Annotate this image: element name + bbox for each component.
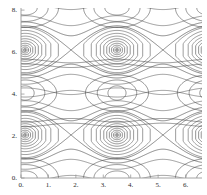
contour-path — [201, 128, 207, 141]
contour-path — [203, 45, 207, 54]
x-tick-label: 5. — [155, 182, 160, 189]
contour-path — [22, 132, 29, 138]
y-tick-label: 6. — [2, 49, 17, 56]
contour-path — [199, 126, 207, 144]
contour-path — [104, 39, 130, 62]
contour-path — [175, 8, 207, 27]
contour-path — [97, 80, 136, 106]
contour-path — [205, 47, 207, 53]
x-tick-label: 2. — [73, 182, 78, 189]
contour-path — [114, 132, 121, 138]
contour-path — [175, 159, 207, 178]
contour-lines — [0, 3, 207, 182]
contour-path — [188, 118, 207, 151]
contour-path — [201, 43, 207, 56]
contour-path — [85, 75, 148, 111]
contour-path — [188, 33, 207, 66]
contour-path — [84, 8, 151, 27]
contour-path — [100, 121, 133, 149]
contour-path — [114, 47, 121, 53]
x-axis-ticks — [21, 175, 186, 179]
contour-path — [10, 59, 207, 63]
y-tick-label: 8. — [2, 7, 17, 14]
contour-path — [24, 134, 25, 135]
y-tick-label: 2. — [2, 133, 17, 140]
contour-path — [115, 133, 119, 136]
contour-path — [10, 3, 207, 10]
contour-path — [24, 49, 25, 50]
y-axis-ticks — [21, 10, 25, 178]
x-tick-label: 4. — [128, 182, 133, 189]
contour-path — [116, 49, 117, 50]
x-tick-label: 0. — [18, 182, 23, 189]
contour-path — [199, 41, 207, 59]
x-tick-label: 6. — [183, 182, 188, 189]
contour-path — [115, 48, 119, 51]
contour-path — [200, 86, 207, 100]
contour-path — [10, 175, 207, 182]
contour-path — [176, 27, 207, 72]
contour-path — [112, 130, 123, 139]
contour-path — [105, 171, 129, 178]
contour-path — [186, 165, 207, 178]
y-tick-label: 4. — [2, 91, 17, 98]
contour-path — [107, 41, 127, 59]
x-tick-label: 3. — [101, 182, 106, 189]
contour-path — [84, 112, 150, 157]
contour-path — [112, 45, 123, 54]
contour-path — [15, 41, 35, 59]
contour-path — [197, 171, 207, 178]
contour-path — [176, 112, 207, 157]
contour-path — [15, 126, 35, 144]
contour-path — [104, 124, 130, 147]
contour-path — [94, 8, 140, 21]
y-tick-label: 0. — [2, 175, 17, 182]
contour-path — [116, 134, 117, 135]
contour-path — [197, 8, 207, 15]
contour-path — [163, 26, 207, 74]
contour-path — [71, 111, 163, 159]
contour-path — [192, 121, 207, 149]
contour-path — [205, 132, 207, 138]
contour-path — [105, 8, 129, 15]
contour-path — [10, 123, 207, 127]
contour-path — [189, 80, 207, 106]
contour-path — [203, 130, 207, 139]
contour-path — [96, 118, 137, 151]
x-tick-label: 1. — [46, 182, 51, 189]
plot-canvas — [0, 0, 207, 195]
contour-plot-figure: 0.1.2.3.4.5.6. 0.2.4.6.8. — [0, 0, 207, 195]
contour-path — [163, 111, 207, 159]
contour-path — [96, 33, 137, 66]
axis-lines — [21, 8, 202, 178]
contour-path — [183, 30, 207, 69]
contour-path — [107, 126, 127, 144]
contour-path — [84, 159, 151, 178]
contour-path — [23, 48, 27, 51]
